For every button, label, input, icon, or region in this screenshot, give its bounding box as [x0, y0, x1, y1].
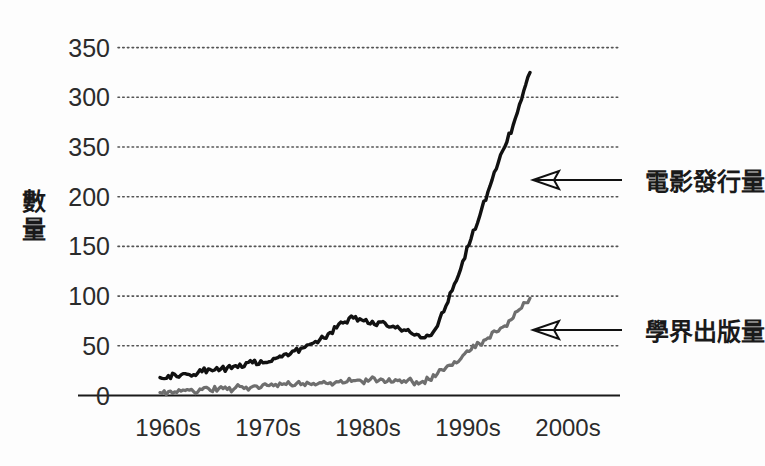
y-axis-tick-label: 150 [68, 232, 110, 260]
annotation-academic-publications: 學界出版量 [533, 318, 765, 346]
line-chart: 350300350200150100500 1960s1970s1980s199… [0, 0, 765, 466]
y-axis-tick-label: 300 [68, 83, 110, 111]
annotation-label: 電影發行量 [645, 168, 765, 196]
annotations-group: 電影發行量學界出版量 [533, 168, 765, 346]
y-axis-tick-label: 50 [82, 332, 110, 360]
y-axis-tick-labels: 350300350200150100500 [68, 34, 110, 410]
y-axis-tick-label: 100 [68, 282, 110, 310]
x-axis-tick-label: 1980s [335, 414, 400, 441]
chart-figure: 350300350200150100500 1960s1970s1980s199… [0, 0, 765, 466]
series-line-film-releases [160, 72, 530, 378]
annotation-film-releases: 電影發行量 [533, 168, 765, 196]
annotation-label: 學界出版量 [645, 318, 765, 346]
y-axis-tick-label: 200 [68, 183, 110, 211]
y-axis-title-char: 量 [22, 216, 46, 244]
x-axis-tick-label: 1990s [435, 414, 500, 441]
y-axis-tick-label: 350 [68, 34, 110, 62]
x-axis-tick-label: 1960s [135, 414, 200, 441]
gridlines-group [118, 48, 620, 346]
x-axis-tick-label: 2000s [535, 414, 600, 441]
x-axis-tick-label: 1970s [235, 414, 300, 441]
x-axis-tick-labels: 1960s1970s1980s1990s2000s [135, 414, 600, 441]
y-axis-tick-label: 0 [96, 382, 110, 410]
y-axis-title: 數量 [22, 188, 46, 244]
y-axis-title-char: 數 [22, 188, 46, 216]
y-axis-tick-label: 350 [68, 133, 110, 161]
